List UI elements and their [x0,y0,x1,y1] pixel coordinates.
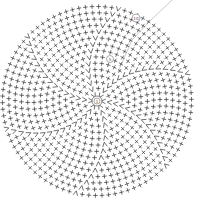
svg-text:10: 10 [133,16,139,21]
svg-text:1: 1 [96,99,99,104]
crochet-chart: 1 5 10 [0,0,202,222]
svg-text:5: 5 [109,57,112,62]
round-marker-1: 1 [92,96,102,106]
round-marker-10: 10 [132,14,140,22]
round-marker-5: 5 [107,56,114,63]
